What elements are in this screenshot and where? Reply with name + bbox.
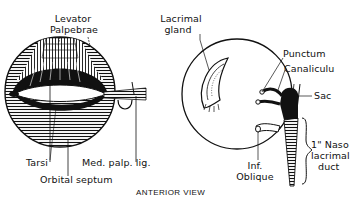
label-tarsi: Tarsi — [26, 158, 48, 168]
label-inf-line1: Inf. — [240, 161, 270, 171]
label-canaliculus: Canaliculu — [284, 64, 334, 74]
label-levator-line1: Levator — [48, 14, 98, 24]
eyelid-figure — [5, 37, 146, 176]
label-naso-line2: lacrimal — [311, 151, 350, 161]
label-orbital-septum: Orbital septum — [40, 175, 112, 185]
label-naso-line1: 1" Naso — [311, 140, 349, 150]
label-levator-line2: Palpebrae — [42, 25, 106, 35]
label-sac: Sac — [314, 91, 331, 101]
label-lacrimal-line2: gland — [158, 25, 198, 35]
figure-caption: ANTERIOR VIEW — [136, 188, 205, 197]
label-inf-line2: Oblique — [232, 172, 278, 182]
label-punctum: Punctum — [283, 49, 326, 59]
label-naso-line3: duct — [318, 162, 339, 172]
label-med-palp-lig: Med. palp. lig. — [82, 158, 151, 168]
label-lacrimal-line1: Lacrimal — [156, 14, 206, 24]
